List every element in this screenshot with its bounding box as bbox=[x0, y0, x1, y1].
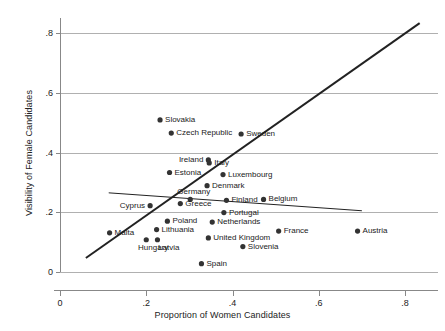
data-point-marker bbox=[224, 198, 229, 203]
data-point-marker bbox=[239, 131, 244, 136]
y-tick-label-4: .8 bbox=[45, 28, 53, 38]
data-point-marker bbox=[240, 244, 245, 249]
data-point-label: France bbox=[284, 227, 309, 235]
data-point-label: Greece bbox=[185, 200, 211, 208]
data-point-label: Hungary bbox=[138, 244, 168, 252]
data-point-marker bbox=[178, 201, 183, 206]
data-point-marker bbox=[167, 170, 172, 175]
data-point-label: Ireland bbox=[179, 156, 203, 164]
data-point-marker bbox=[155, 237, 160, 242]
data-point-label: Finland bbox=[231, 196, 257, 204]
data-point-label: Denmark bbox=[212, 182, 244, 190]
data-point-marker bbox=[154, 227, 159, 232]
x-tick-label-1: .2 bbox=[142, 298, 150, 308]
data-point-label: Italy bbox=[214, 159, 229, 167]
data-point-label: Slovakia bbox=[165, 116, 195, 124]
data-point-marker bbox=[355, 228, 360, 233]
data-point-marker bbox=[165, 219, 170, 224]
data-point-label: Portugal bbox=[229, 209, 259, 217]
data-point-marker bbox=[276, 228, 281, 233]
x-tick-label-2: .4 bbox=[229, 298, 237, 308]
data-point-marker bbox=[107, 230, 112, 235]
data-point-label: Luxembourg bbox=[228, 171, 272, 179]
data-point-marker bbox=[261, 197, 266, 202]
y-axis-title: Visibility of Female Candidates bbox=[24, 38, 34, 268]
data-point-label: Estonia bbox=[175, 169, 202, 177]
data-point-label: Spain bbox=[206, 260, 226, 268]
data-point-marker bbox=[157, 117, 162, 122]
y-tick-label-2: .4 bbox=[45, 148, 53, 158]
y-tick-label-0: 0 bbox=[48, 267, 53, 277]
data-point-label: Slovenia bbox=[248, 243, 279, 251]
data-point-label: Cyprus bbox=[120, 202, 145, 210]
data-point-marker bbox=[199, 261, 204, 266]
data-point-label: Sweden bbox=[246, 130, 275, 138]
data-point-marker bbox=[206, 235, 211, 240]
data-point-label: Austria bbox=[363, 227, 388, 235]
data-point-marker bbox=[210, 220, 215, 225]
x-tick-label-4: .8 bbox=[401, 298, 409, 308]
x-axis-title: Proportion of Women Candidates bbox=[0, 310, 445, 320]
x-tick-label-0: 0 bbox=[57, 298, 62, 308]
data-point-marker bbox=[207, 160, 212, 165]
data-point-label: Czech Republic bbox=[176, 129, 232, 137]
axes-group bbox=[54, 18, 438, 291]
x-tick-label-3: .6 bbox=[315, 298, 323, 308]
data-point-marker bbox=[169, 130, 174, 135]
data-point-label: Malta bbox=[115, 229, 135, 237]
data-point-label: Netherlands bbox=[217, 218, 260, 226]
y-tick-label-3: .6 bbox=[45, 88, 53, 98]
data-point-label: Lithuania bbox=[162, 226, 194, 234]
data-point-marker bbox=[220, 172, 225, 177]
data-point-marker bbox=[148, 203, 153, 208]
data-point-label: Germany bbox=[177, 188, 210, 196]
data-point-marker bbox=[144, 237, 149, 242]
scatter-plot-figure: 0.2.4.6.80.2.4.6.8 SlovakiaCzech Republi… bbox=[0, 0, 445, 331]
data-point-label: Belgium bbox=[269, 195, 298, 203]
y-tick-label-1: .2 bbox=[45, 207, 53, 217]
x-tick-marks-group bbox=[61, 291, 406, 296]
data-point-marker bbox=[221, 210, 226, 215]
